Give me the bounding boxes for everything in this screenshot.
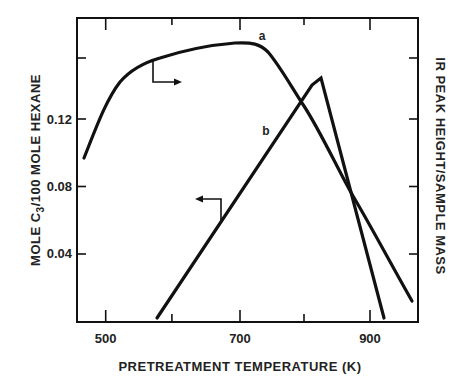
x-tick-900: 900	[359, 331, 381, 346]
x-tick-500: 500	[95, 331, 117, 346]
curve-b-label: b	[262, 124, 269, 138]
chart: 500 700 900 0.04 0.08 0.12 PRETREATMENT …	[0, 0, 465, 384]
y-ticks	[77, 58, 418, 254]
curve-a	[84, 43, 412, 301]
x-tick-700: 700	[229, 331, 251, 346]
curve-b	[157, 78, 384, 318]
y-axis-right-title: IR PEAK HEIGHT/SAMPLE MASS	[433, 57, 448, 274]
arrowhead-left-icon	[195, 196, 203, 203]
plot-frame	[77, 18, 418, 322]
right-axis-arrow-icon	[153, 61, 176, 82]
y-tick-0.12: 0.12	[47, 112, 72, 127]
left-axis-arrow-icon	[201, 199, 221, 220]
arrowhead-right-icon	[174, 79, 182, 86]
y-tick-0.04: 0.04	[47, 246, 73, 261]
x-axis-title: PRETREATMENT TEMPERATURE (K)	[118, 359, 361, 374]
curve-a-label: a	[259, 29, 266, 43]
y-tick-0.08: 0.08	[47, 179, 72, 194]
y-axis-left-title: MOLE C3/100 MOLE HEXANE	[28, 74, 46, 266]
